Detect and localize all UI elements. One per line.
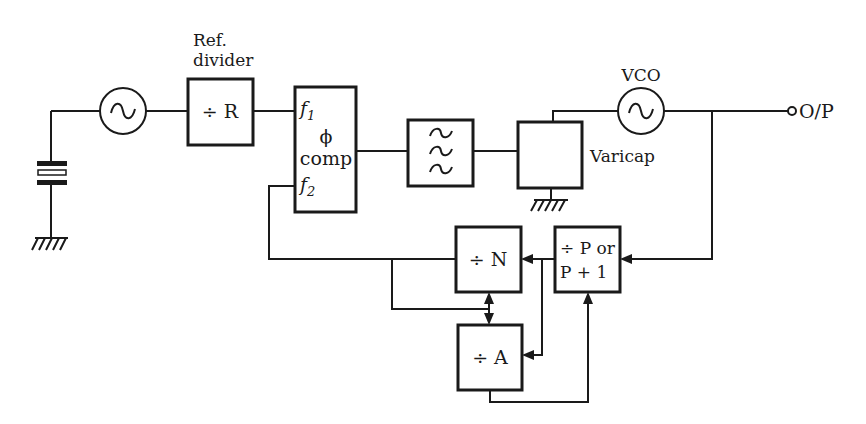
arrow-icon bbox=[484, 313, 494, 325]
wire bbox=[553, 111, 618, 122]
pll-synthesizer-diagram: Ref. divider ÷ R f1 ϕ comp f2 Varicap VC… bbox=[0, 0, 866, 424]
vco-label: VCO bbox=[620, 65, 660, 85]
arrow-icon bbox=[620, 254, 632, 264]
arrow-icon bbox=[484, 292, 494, 304]
output-terminal bbox=[788, 107, 796, 115]
divide-a-label: ÷ A bbox=[472, 346, 508, 368]
varicap-label: Varicap bbox=[589, 146, 655, 166]
divide-n-label: ÷ N bbox=[469, 248, 508, 270]
ref-divider-box-label: ÷ R bbox=[202, 100, 239, 122]
ref-divider-label-line2: divider bbox=[193, 50, 254, 70]
arrow-icon bbox=[522, 350, 534, 360]
phase-comparator-block: f1 ϕ comp f2 bbox=[295, 87, 356, 212]
reference-oscillator bbox=[100, 88, 146, 134]
ref-divider-block: ÷ R bbox=[188, 79, 253, 145]
output-label: O/P bbox=[799, 100, 834, 122]
varicap-block bbox=[518, 122, 582, 200]
divide-a-block: ÷ A bbox=[458, 325, 522, 390]
prescaler-label-line2: P + 1 bbox=[560, 262, 607, 282]
ref-divider-label-line1: Ref. bbox=[193, 30, 227, 50]
ground-icon bbox=[32, 238, 68, 250]
comp-label: comp bbox=[300, 147, 352, 169]
divide-n-block: ÷ N bbox=[456, 227, 521, 292]
prescaler-label-line1: ÷ P or bbox=[560, 238, 616, 258]
arrow-icon bbox=[521, 254, 533, 264]
ground-icon bbox=[531, 200, 568, 211]
prescaler-block: ÷ P or P + 1 bbox=[555, 227, 620, 292]
phi-symbol: ϕ bbox=[320, 125, 333, 147]
wire bbox=[532, 259, 542, 355]
vco-oscillator bbox=[618, 88, 664, 134]
loop-filter-block bbox=[408, 120, 473, 186]
crystal bbox=[37, 111, 67, 238]
arrow-icon bbox=[583, 292, 593, 304]
